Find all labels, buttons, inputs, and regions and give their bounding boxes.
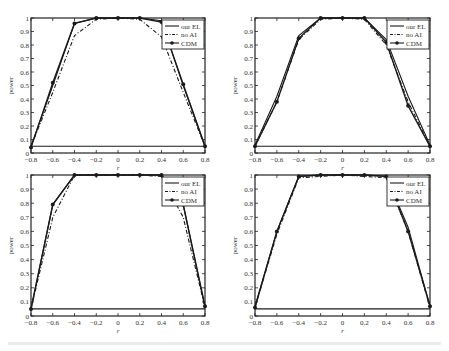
cdm-marker: [406, 229, 410, 233]
y-tick-label: 1: [26, 15, 30, 23]
y-tick-label: 0.7: [244, 214, 253, 222]
legend-entry: our EL: [406, 23, 426, 31]
x-tick-label: 0: [341, 156, 345, 164]
x-tick-label: 0: [341, 319, 345, 327]
chart-panel-bottom-right: 00.10.20.30.40.50.60.70.80.91−0.8−0.6−0.…: [231, 172, 435, 336]
y-tick-label: 0.6: [244, 69, 253, 77]
legend-entry: no AI: [181, 31, 197, 39]
legend-entry: our EL: [181, 180, 201, 188]
y-tick-label: 0.3: [20, 270, 29, 278]
x-tick-label: −0.8: [249, 156, 262, 164]
y-tick-label: 0.5: [20, 82, 29, 90]
cdm-marker: [116, 173, 120, 177]
cdm-marker: [362, 173, 366, 177]
y-tick-label: 1: [250, 172, 254, 180]
y-axis-label: power: [7, 76, 15, 94]
x-tick-label: 0.6: [404, 156, 413, 164]
x-tick-label: 0: [116, 319, 120, 327]
y-tick-label: 0.2: [20, 123, 29, 131]
y-axis-label: power: [231, 76, 239, 94]
x-tick-label: 0.6: [179, 156, 188, 164]
cdm-marker: [341, 173, 345, 177]
y-tick-label: 0.3: [244, 270, 253, 278]
y-tick-label: 0.5: [244, 242, 253, 250]
y-tick-label: 0.8: [20, 42, 29, 50]
cdm-marker: [116, 16, 120, 20]
y-tick-label: 0.1: [244, 136, 253, 144]
cdm-marker: [253, 144, 257, 148]
x-tick-label: −0.8: [25, 156, 38, 164]
y-tick-label: 0.1: [20, 136, 29, 144]
y-tick-label: 0.7: [244, 55, 253, 63]
cdm-marker: [181, 82, 185, 86]
cdm-marker: [138, 16, 142, 20]
x-tick-label: 0.8: [201, 156, 210, 164]
legend-entry: no AI: [406, 31, 422, 39]
x-tick-label: −0.4: [292, 156, 305, 164]
cdm-marker: [160, 173, 164, 177]
x-tick-label: 0.2: [135, 319, 144, 327]
cdm-marker: [29, 307, 33, 311]
y-tick-label: 0.1: [244, 298, 253, 306]
legend: our ELno AICDM: [387, 177, 429, 206]
y-tick-label: 1: [250, 15, 254, 23]
y-tick-label: 0.4: [244, 96, 253, 104]
y-tick-label: 0.9: [244, 186, 253, 194]
y-tick-label: 0.8: [244, 42, 253, 50]
cdm-marker: [297, 174, 301, 178]
x-tick-label: 0.2: [360, 156, 369, 164]
y-tick-label: 0.2: [244, 123, 253, 131]
y-tick-label: 0.2: [244, 284, 253, 292]
y-tick-label: 0.7: [20, 55, 29, 63]
x-axis-label: r: [341, 327, 344, 335]
x-tick-label: −0.2: [90, 156, 103, 164]
cdm-marker: [203, 304, 207, 308]
cdm-marker: [275, 229, 279, 233]
y-tick-label: 0.8: [20, 200, 29, 208]
cdm-marker: [94, 16, 98, 20]
legend-entry: no AI: [406, 188, 422, 196]
cdm-marker: [73, 21, 77, 25]
legend-entry: our EL: [406, 180, 426, 188]
cdm-marker: [73, 173, 77, 177]
x-tick-label: 0.2: [360, 319, 369, 327]
legend-entry: no AI: [181, 188, 197, 196]
y-axis-label: power: [7, 236, 15, 254]
y-tick-label: 0.4: [20, 96, 29, 104]
x-tick-label: 0.6: [179, 319, 188, 327]
y-axis-label: power: [231, 236, 239, 254]
legend-entry: CDM: [181, 40, 198, 48]
x-tick-label: −0.6: [46, 156, 59, 164]
x-tick-label: 0.4: [382, 319, 391, 327]
cdm-marker: [341, 16, 345, 20]
x-tick-label: −0.2: [314, 319, 327, 327]
chart-panel-top-right: 00.10.20.30.40.50.60.70.80.91−0.8−0.6−0.…: [231, 15, 435, 173]
y-tick-label: 0.2: [20, 284, 29, 292]
x-tick-label: −0.6: [271, 156, 284, 164]
cdm-marker: [51, 81, 55, 85]
y-tick-label: 0.6: [20, 228, 29, 236]
x-tick-label: −0.4: [68, 156, 81, 164]
y-tick-label: 0.3: [20, 109, 29, 117]
cdm-marker: [29, 146, 33, 150]
x-tick-label: 0.4: [157, 156, 166, 164]
y-tick-label: 0.6: [244, 228, 253, 236]
cdm-marker: [319, 173, 323, 177]
x-tick-label: 0.8: [201, 319, 210, 327]
y-tick-label: 0.6: [20, 69, 29, 77]
cdm-marker: [94, 173, 98, 177]
y-tick-label: 0.5: [20, 242, 29, 250]
cdm-marker: [362, 16, 366, 20]
legend-entry: our EL: [181, 23, 201, 31]
x-tick-label: −0.8: [249, 319, 262, 327]
x-tick-label: −0.2: [314, 156, 327, 164]
x-tick-label: 0.8: [426, 319, 435, 327]
legend-entry: CDM: [406, 40, 423, 48]
x-tick-label: −0.6: [271, 319, 284, 327]
x-tick-label: −0.2: [90, 319, 103, 327]
y-tick-label: 0.4: [20, 256, 29, 264]
figure-caption-faded: [8, 342, 441, 345]
x-tick-label: −0.4: [68, 319, 81, 327]
cdm-marker: [428, 304, 432, 308]
y-tick-label: 0.9: [244, 28, 253, 36]
